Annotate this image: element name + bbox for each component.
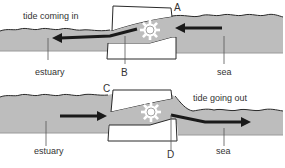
panel-tide-going-out: C tide going out estuary D sea [0,83,283,160]
point-label-c: C [103,83,110,94]
panel-caption: tide going out [193,93,248,103]
estuary-label: estuary [35,67,65,77]
point-label-a: A [174,2,181,13]
turbine-gear-icon [140,20,160,40]
sea-label: sea [216,146,231,156]
point-label-b: B [121,67,128,78]
estuary-label: estuary [34,146,64,156]
point-label-d: D [167,149,174,160]
panel-caption: tide coming in [23,11,79,21]
sea-label: sea [217,67,232,77]
tidal-barrage-diagram: tide coming in estuary B sea A C tide go… [0,0,285,168]
panel-tide-coming-in: tide coming in estuary B sea A [0,2,283,78]
turbine-gear-icon [141,102,161,122]
